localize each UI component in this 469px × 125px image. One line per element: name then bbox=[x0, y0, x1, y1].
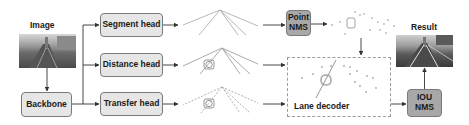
point-nms-box: Point NMS bbox=[286, 10, 311, 36]
segment-map-sketch bbox=[183, 10, 258, 35]
iou-nms-box: IOU NMS bbox=[407, 89, 442, 117]
input-image bbox=[19, 34, 76, 68]
input-image-label: Image bbox=[30, 20, 55, 30]
lane-decoder-label: Lane decoder bbox=[294, 101, 349, 111]
transfer-head-box: Transfer head bbox=[100, 92, 163, 116]
transfer-map-sketch bbox=[183, 87, 258, 113]
segment-head-box: Segment head bbox=[100, 13, 163, 37]
backbone-box: Backbone bbox=[21, 92, 72, 117]
result-image bbox=[396, 35, 453, 67]
lane-decoder-box: Lane decoder bbox=[287, 57, 391, 117]
distance-map-sketch bbox=[183, 48, 258, 74]
result-label: Result bbox=[411, 22, 437, 32]
keypoint-marker-icon bbox=[347, 18, 355, 28]
keypoints-sketch bbox=[331, 11, 395, 35]
distance-head-box: Distance head bbox=[100, 53, 163, 77]
arrow-backbone-to-heads bbox=[72, 25, 99, 104]
